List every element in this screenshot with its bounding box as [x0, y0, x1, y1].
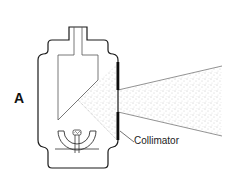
filament-coil	[75, 132, 81, 134]
cathode-filament	[73, 130, 81, 135]
collimator-upper-plate	[117, 62, 120, 90]
collimator-label: Collimator	[134, 135, 179, 146]
xray-tube-diagram	[0, 0, 233, 185]
collimator-leader-line	[120, 131, 134, 142]
panel-label: A	[14, 90, 24, 106]
xray-beam-inner	[78, 64, 117, 140]
collimator-lower-plate	[117, 112, 120, 140]
focusing-cup	[58, 131, 96, 150]
xray-beam-outer	[118, 66, 222, 136]
